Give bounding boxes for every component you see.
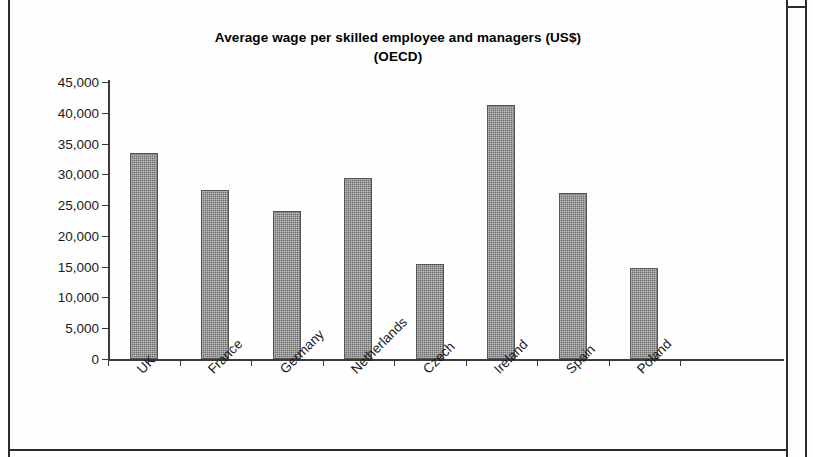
bar-spain bbox=[559, 193, 587, 359]
y-axis-tick-mark bbox=[102, 174, 108, 175]
y-axis-tick-mark bbox=[102, 82, 108, 83]
x-axis-tick-mark bbox=[394, 359, 395, 366]
x-axis-tick-mark bbox=[466, 359, 467, 366]
bar-chart: Average wage per skilled employee and ma… bbox=[10, 0, 786, 448]
chart-title-block: Average wage per skilled employee and ma… bbox=[10, 28, 786, 66]
bar-uk bbox=[130, 153, 158, 359]
x-axis-tick-mark bbox=[680, 359, 681, 366]
y-axis-tick-mark bbox=[102, 297, 108, 298]
y-axis-tick-label: 5,000 bbox=[65, 321, 99, 336]
y-axis-tick-label: 10,000 bbox=[58, 290, 99, 305]
y-axis-tick-label: 25,000 bbox=[58, 198, 99, 213]
page-border-bottom bbox=[8, 449, 788, 451]
y-axis-tick-mark bbox=[102, 205, 108, 206]
y-axis-tick-mark bbox=[102, 236, 108, 237]
y-axis-tick-mark bbox=[102, 144, 108, 145]
bar-germany bbox=[273, 211, 301, 359]
page-border-right bbox=[786, 0, 788, 457]
chart-title: Average wage per skilled employee and ma… bbox=[10, 28, 786, 47]
y-axis-tick-label: 15,000 bbox=[58, 259, 99, 274]
bar-france bbox=[201, 190, 229, 359]
y-axis-tick-label: 45,000 bbox=[58, 75, 99, 90]
page-border-top bbox=[786, 6, 806, 8]
y-axis-tick-mark bbox=[102, 328, 108, 329]
x-axis-tick-mark bbox=[251, 359, 252, 366]
plot-area: 45,00040,00035,00030,00025,00020,00015,0… bbox=[108, 82, 680, 359]
y-axis-tick-label: 0 bbox=[91, 352, 99, 367]
x-axis-tick-mark bbox=[537, 359, 538, 366]
x-axis-tick-mark bbox=[108, 359, 109, 366]
chart-subtitle: (OECD) bbox=[10, 47, 786, 66]
scanned-page: Average wage per skilled employee and ma… bbox=[0, 0, 813, 457]
y-axis-tick-label: 35,000 bbox=[58, 136, 99, 151]
y-axis-tick-label: 20,000 bbox=[58, 228, 99, 243]
y-axis-tick-label: 40,000 bbox=[58, 105, 99, 120]
x-axis-tick-mark bbox=[180, 359, 181, 366]
bar-netherlands bbox=[344, 178, 372, 359]
page-border-right-outer bbox=[805, 0, 807, 457]
y-axis-tick-mark bbox=[102, 113, 108, 114]
x-axis-tick-mark bbox=[323, 359, 324, 366]
bar-ireland bbox=[487, 105, 515, 359]
x-axis-tick-mark bbox=[609, 359, 610, 366]
y-axis-tick-label: 30,000 bbox=[58, 167, 99, 182]
y-axis-tick-mark bbox=[102, 267, 108, 268]
